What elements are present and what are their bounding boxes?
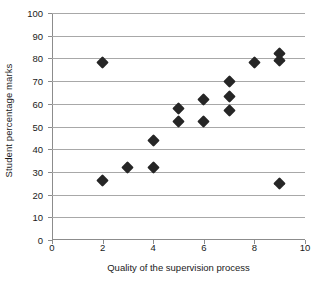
y-tick-mark bbox=[48, 127, 52, 128]
y-tick-mark bbox=[48, 58, 52, 59]
y-tick-label: 10 bbox=[32, 212, 43, 223]
y-tick-label: 60 bbox=[32, 98, 43, 109]
y-tick-label: 0 bbox=[38, 235, 43, 246]
x-tick-label: 10 bbox=[300, 242, 311, 253]
y-axis-title-text: Student percentage marks bbox=[4, 63, 15, 177]
gridline-horizontal bbox=[52, 195, 305, 196]
data-point-marker bbox=[223, 104, 236, 117]
x-axis-title: Quality of the supervision process bbox=[52, 262, 305, 273]
y-tick-mark bbox=[48, 13, 52, 14]
y-tick-label: 70 bbox=[32, 76, 43, 87]
y-tick-label: 30 bbox=[32, 166, 43, 177]
gridline-horizontal bbox=[52, 149, 305, 150]
x-axis-line bbox=[52, 239, 305, 240]
x-tick-label: 8 bbox=[252, 242, 257, 253]
y-axis-title: Student percentage marks bbox=[0, 0, 18, 240]
gridline-horizontal bbox=[52, 36, 305, 37]
y-tick-mark bbox=[48, 81, 52, 82]
data-point-marker bbox=[96, 175, 109, 188]
gridline-horizontal bbox=[52, 172, 305, 173]
gridline-horizontal bbox=[52, 58, 305, 59]
gridline-horizontal bbox=[52, 81, 305, 82]
plot-area bbox=[52, 13, 305, 240]
y-tick-label: 90 bbox=[32, 30, 43, 41]
x-axis-tick-labels: 0246810 bbox=[52, 242, 305, 258]
y-axis-tick-labels: 0102030405060708090100 bbox=[17, 0, 47, 241]
y-tick-mark bbox=[48, 149, 52, 150]
y-tick-label: 100 bbox=[27, 8, 43, 19]
y-tick-label: 50 bbox=[32, 121, 43, 132]
y-tick-label: 80 bbox=[32, 53, 43, 64]
y-tick-mark bbox=[48, 217, 52, 218]
gridline-horizontal bbox=[52, 13, 305, 14]
y-tick-mark bbox=[48, 36, 52, 37]
y-tick-mark bbox=[48, 195, 52, 196]
x-tick-label: 6 bbox=[201, 242, 206, 253]
y-tick-mark bbox=[48, 104, 52, 105]
y-tick-label: 40 bbox=[32, 144, 43, 155]
y-tick-mark bbox=[48, 172, 52, 173]
scatter-chart-figure: Student percentage marks 010203040506070… bbox=[0, 0, 325, 289]
data-point-marker bbox=[223, 75, 236, 88]
x-tick-label: 4 bbox=[151, 242, 156, 253]
x-tick-label: 0 bbox=[49, 242, 54, 253]
data-point-marker bbox=[147, 134, 160, 147]
x-tick-label: 2 bbox=[100, 242, 105, 253]
y-tick-label: 20 bbox=[32, 189, 43, 200]
gridline-horizontal bbox=[52, 217, 305, 218]
data-point-marker bbox=[273, 177, 286, 190]
data-point-marker bbox=[223, 91, 236, 104]
